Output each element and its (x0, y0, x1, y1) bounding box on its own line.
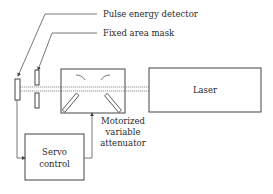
detector-leader-line (18, 14, 97, 76)
pulse-energy-detector (15, 79, 20, 100)
laser-control-diagram: Pulse energy detector Fixed area mask La… (0, 0, 273, 194)
fixed-area-mask (35, 70, 39, 108)
attenuator-label-line2: variable (105, 127, 141, 137)
servo-label-line2: control (39, 159, 70, 169)
detector-to-servo-line (17, 100, 25, 158)
fixed-area-mask-label: Fixed area mask (103, 28, 175, 38)
laser-label: Laser (193, 85, 218, 95)
attenuator-label-line1: Motorized (101, 116, 146, 126)
servo-control-box (25, 134, 84, 180)
mask-leader-line (38, 33, 97, 70)
attenuator-label-line3: attenuator (100, 138, 146, 148)
servo-label-line1: Servo (42, 147, 67, 157)
pulse-energy-detector-label: Pulse energy detector (103, 9, 199, 19)
servo-to-attenuator-line (84, 113, 92, 158)
